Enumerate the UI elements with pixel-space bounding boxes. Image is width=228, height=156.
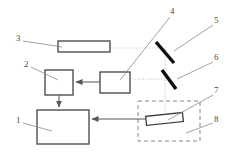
leader-line-3: [23, 41, 62, 47]
controller-box: [45, 70, 73, 95]
leader-line-5: [174, 25, 213, 51]
figure-canvas: 1 2 3 4 5 6 7 8: [0, 0, 228, 156]
detector-unit: [37, 110, 89, 144]
label-4: 4: [170, 7, 175, 16]
leader-line-6: [177, 62, 213, 79]
label-3: 3: [16, 34, 21, 43]
label-2: 2: [24, 60, 29, 69]
laser-source: [58, 41, 110, 52]
leader-line-7: [168, 95, 213, 120]
beam-conditioner-box: [100, 72, 130, 93]
label-5: 5: [214, 16, 219, 25]
label-7: 7: [214, 86, 219, 95]
label-1: 1: [16, 116, 21, 125]
diagram-svg: [0, 0, 228, 156]
label-8: 8: [214, 115, 219, 124]
label-6: 6: [214, 53, 219, 62]
